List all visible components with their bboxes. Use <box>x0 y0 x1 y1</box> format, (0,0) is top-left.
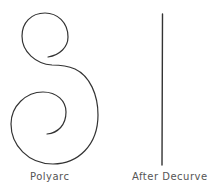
after-decurve-caption: After Decurve <box>132 171 208 182</box>
polyarc-caption: Polyarc <box>30 171 70 182</box>
diagram-canvas <box>0 0 219 192</box>
polyarc-curve <box>11 13 98 164</box>
decurved-line <box>162 14 163 165</box>
